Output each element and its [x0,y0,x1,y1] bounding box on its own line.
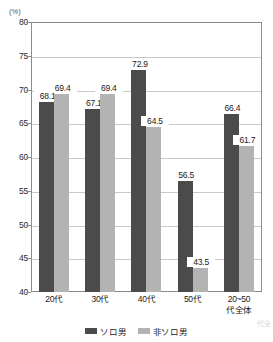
bar [131,70,146,292]
bar-value-label: 66.4 [218,103,246,113]
bar [39,102,54,292]
bar-value-label: 56.5 [172,170,200,180]
y-axis-tick-label: 55 [0,186,28,196]
bar-chart: (%) 404550556065707580 68.169.467.169.47… [0,0,273,342]
x-axis-labels: 20代30代40代50代20~50代全体 [31,294,262,322]
y-axis-tick-mark [26,292,31,293]
bar-value-label: 72.9 [126,59,154,69]
scan-bleed-top [0,0,273,7]
y-axis-unit-label: (%) [9,7,21,16]
x-axis-tick-label: 20~50代全体 [216,294,262,315]
legend-label-solo: ソロ男 [100,325,126,337]
y-axis-tick-label: 50 [0,220,28,230]
y-axis-tick-label: 45 [0,253,28,263]
y-axis-tick-label: 75 [0,51,28,61]
bar-group: 68.169.4 [31,22,77,292]
legend-item-nonsolo: 非ソロ男 [138,325,188,337]
bar [54,94,69,292]
y-axis-tick-label: 70 [0,85,28,95]
bar [100,94,115,292]
bar-value-label: 43.5 [187,257,215,267]
bar-value-label: 69.4 [95,83,123,93]
bar [85,109,100,292]
legend-label-nonsolo: 非ソロ男 [153,325,188,337]
chart-legend: ソロ男 非ソロ男 [0,325,273,337]
x-axis-tick-label: 20代 [31,294,77,305]
y-axis-tick-label: 60 [0,152,28,162]
y-axis-tick-label: 40 [0,287,28,297]
x-axis-tick-label: 50代 [170,294,216,305]
bar-value-label: 64.5 [141,116,169,126]
legend-swatch-icon-solo [85,328,97,334]
x-axis-tick-label: 40代 [123,294,169,305]
legend-swatch-icon-nonsolo [138,328,150,334]
bar-group: 72.964.5 [123,22,169,292]
bar [239,146,254,292]
bar [178,181,193,292]
scan-bleed-right: 代全 [257,318,271,328]
bar-group: 56.543.5 [170,22,216,292]
bar [146,127,161,292]
bar-group: 67.169.4 [77,22,123,292]
y-axis-tick-label: 65 [0,118,28,128]
x-axis-tick-label: 30代 [77,294,123,305]
y-axis-tick-label: 80 [0,17,28,27]
bar [193,268,208,292]
bar-group: 66.461.7 [216,22,262,292]
legend-item-solo: ソロ男 [85,325,126,337]
bars-layer: 68.169.467.169.472.964.556.543.566.461.7 [31,22,262,292]
bar-value-label: 61.7 [233,135,261,145]
bar-value-label: 69.4 [49,83,77,93]
